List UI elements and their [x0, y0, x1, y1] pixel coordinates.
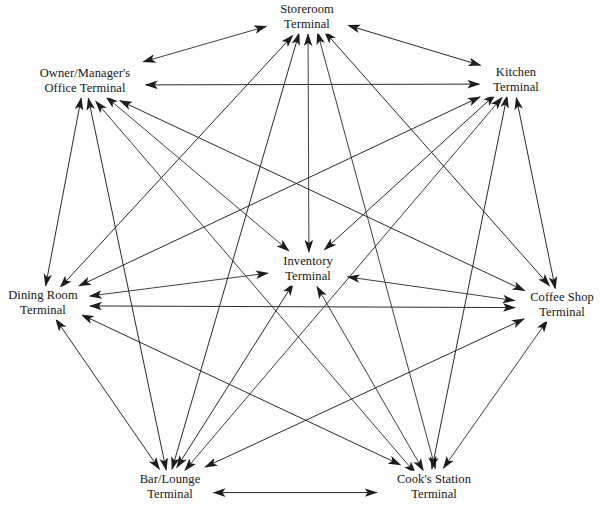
- edge-storeroom-to-kitchen: [348, 25, 480, 65]
- edge-kitchen-to-cooks: [432, 96, 507, 469]
- edge-cooks-to-dining: [82, 315, 401, 465]
- edge-dining-to-inventory: [90, 273, 268, 296]
- node-kitchen-terminal[interactable]: Kitchen Terminal: [489, 64, 543, 97]
- node-label-line2: Terminal: [280, 17, 334, 32]
- edge-owner-to-dining: [46, 98, 82, 286]
- edge-storeroom-to-cooks: [318, 32, 436, 468]
- edge-kitchen-to-inventory: [325, 95, 496, 250]
- edge-storeroom-to-inventory: [308, 34, 309, 252]
- edge-kitchen-to-coffee: [516, 98, 555, 289]
- node-dining-room-terminal[interactable]: Dining Room Terminal: [4, 287, 82, 320]
- edge-owner-to-inventory: [106, 97, 289, 251]
- node-label-line2: Office Terminal: [40, 81, 131, 96]
- node-label-line1: Bar/Lounge: [140, 472, 201, 487]
- node-label-line2: Terminal: [140, 487, 201, 502]
- node-owner-manager-office-terminal[interactable]: Owner/Manager's Office Terminal: [36, 65, 135, 98]
- node-label-line1: Owner/Manager's: [40, 66, 131, 81]
- edge-owner-to-kitchen: [146, 84, 480, 85]
- node-label-line1: Storeroom: [280, 2, 334, 17]
- edge-owner-to-bar: [88, 98, 166, 470]
- edge-storeroom-to-bar: [172, 33, 299, 469]
- edge-bar-to-inventory: [177, 283, 293, 467]
- node-coffee-shop-terminal[interactable]: Coffee Shop Terminal: [526, 289, 598, 322]
- node-cooks-station-terminal[interactable]: Cook's Station Terminal: [393, 471, 475, 504]
- node-inventory-terminal[interactable]: Inventory Terminal: [279, 253, 337, 286]
- edge-coffee-to-bar: [205, 319, 524, 467]
- node-label-line2: Terminal: [283, 269, 333, 284]
- network-diagram: Storeroom Terminal Kitchen Terminal Coff…: [0, 0, 600, 514]
- node-storeroom-terminal[interactable]: Storeroom Terminal: [276, 1, 338, 34]
- edge-coffee-to-inventory: [348, 277, 515, 301]
- edge-coffee-to-cooks: [443, 320, 547, 468]
- node-label-line1: Kitchen: [493, 65, 539, 80]
- node-label-line2: Terminal: [493, 80, 539, 95]
- node-label-line2: Terminal: [397, 487, 471, 502]
- node-bar-lounge-terminal[interactable]: Bar/Lounge Terminal: [136, 471, 205, 504]
- node-label-line1: Coffee Shop: [530, 290, 594, 305]
- node-label-line1: Inventory: [283, 254, 333, 269]
- node-label-line1: Dining Room: [8, 288, 78, 303]
- edge-owner-to-storeroom: [143, 26, 266, 61]
- node-label-line2: Terminal: [530, 305, 594, 320]
- edge-cooks-to-inventory: [317, 287, 423, 471]
- edge-owner-to-cooks: [96, 101, 416, 473]
- edge-bar-to-dining: [56, 319, 160, 469]
- node-label-line2: Terminal: [8, 303, 78, 318]
- node-label-line1: Cook's Station: [397, 472, 471, 487]
- edge-coffee-to-dining: [90, 306, 515, 308]
